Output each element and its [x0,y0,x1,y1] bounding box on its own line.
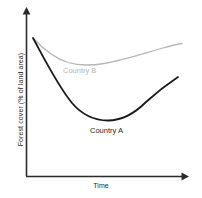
x-axis-label: Time [0,182,202,189]
y-axis [23,7,31,176]
x-axis [26,173,189,181]
forest-cover-chart: Forest cover (% of land area) Time Count… [0,0,202,198]
series-label-country-b: Country B [63,66,96,75]
series-label-country-a: Country A [90,126,123,135]
y-axis-label: Forest cover (% of land area) [17,35,24,165]
chart-plot-area [0,0,202,198]
y-axis-arrow-icon [23,7,31,15]
series-line-country-b [33,38,182,65]
x-axis-arrow-icon [182,173,190,181]
